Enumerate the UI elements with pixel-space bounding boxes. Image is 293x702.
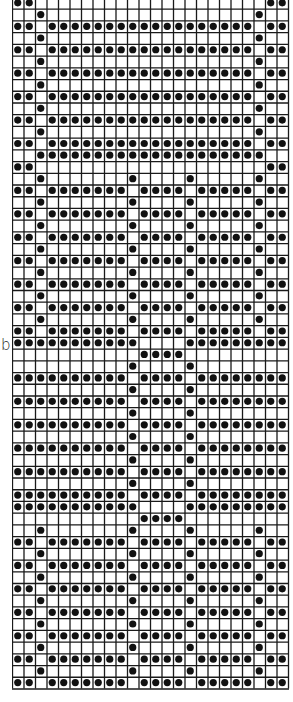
stitch-dot — [279, 503, 286, 510]
stitch-dot — [152, 492, 159, 499]
stitch-dot — [267, 23, 274, 30]
stitch-dot — [233, 304, 240, 311]
stitch-dot — [129, 140, 136, 147]
stitch-dot — [118, 140, 125, 147]
stitch-dot — [244, 152, 251, 159]
stitch-dot — [14, 93, 21, 100]
stitch-dot — [95, 339, 102, 346]
stitch-dot — [118, 503, 125, 510]
stitch-dot — [141, 374, 148, 381]
stitch-dot — [37, 421, 44, 428]
stitch-dot — [164, 492, 171, 499]
stitch-dot — [49, 656, 56, 663]
stitch-dot — [279, 187, 286, 194]
stitch-dot — [187, 70, 194, 77]
stitch-dot — [164, 374, 171, 381]
stitch-dot — [267, 234, 274, 241]
stitch-dot — [233, 445, 240, 452]
stitch-dot — [187, 339, 194, 346]
stitch-dot — [244, 140, 251, 147]
stitch-dot — [37, 175, 44, 182]
stitch-dot — [129, 574, 136, 581]
stitch-dot — [83, 421, 90, 428]
stitch-dot — [187, 667, 194, 674]
stitch-dot — [279, 421, 286, 428]
stitch-dot — [129, 245, 136, 252]
stitch-dot — [106, 210, 113, 217]
stitch-dot — [72, 210, 79, 217]
stitch-dot — [187, 363, 194, 370]
stitch-dot — [244, 538, 251, 545]
stitch-dot — [129, 70, 136, 77]
stitch-dot — [95, 210, 102, 217]
stitch-dot — [83, 632, 90, 639]
stitch-dot — [141, 632, 148, 639]
stitch-dot — [233, 23, 240, 30]
stitch-dot — [175, 281, 182, 288]
stitch-dot — [164, 46, 171, 53]
stitch-dot — [175, 515, 182, 522]
stitch-dot — [164, 445, 171, 452]
stitch-dot — [95, 23, 102, 30]
stitch-dot — [233, 468, 240, 475]
stitch-dot — [175, 585, 182, 592]
stitch-dot — [164, 116, 171, 123]
stitch-dot — [72, 421, 79, 428]
stitch-dot — [198, 70, 205, 77]
stitch-dot — [83, 398, 90, 405]
stitch-dot — [60, 562, 67, 569]
stitch-dot — [164, 23, 171, 30]
stitch-dot — [26, 210, 33, 217]
stitch-dot — [210, 609, 217, 616]
stitch-dot — [164, 327, 171, 334]
stitch-dot — [198, 93, 205, 100]
stitch-dot — [26, 339, 33, 346]
stitch-dot — [279, 70, 286, 77]
stitch-dot — [72, 562, 79, 569]
stitch-dot — [210, 234, 217, 241]
stitch-dot — [256, 620, 263, 627]
stitch-dot — [14, 234, 21, 241]
stitch-dot — [60, 492, 67, 499]
stitch-dot — [256, 468, 263, 475]
stitch-dot — [267, 304, 274, 311]
stitch-dot — [60, 304, 67, 311]
stitch-dot — [267, 257, 274, 264]
stitch-dot — [14, 140, 21, 147]
stitch-dot — [279, 468, 286, 475]
stitch-dot — [129, 644, 136, 651]
stitch-dot — [60, 632, 67, 639]
stitch-dot — [95, 187, 102, 194]
stitch-dot — [129, 363, 136, 370]
stitch-dot — [221, 93, 228, 100]
stitch-dot — [279, 281, 286, 288]
stitch-dot — [49, 339, 56, 346]
stitch-dot — [26, 281, 33, 288]
stitch-dot — [118, 152, 125, 159]
stitch-dot — [256, 292, 263, 299]
stitch-dot — [152, 281, 159, 288]
stitch-dot — [49, 234, 56, 241]
stitch-dot — [141, 609, 148, 616]
stitch-dot — [267, 210, 274, 217]
stitch-dot — [244, 632, 251, 639]
stitch-dot — [37, 398, 44, 405]
stitch-dot — [60, 257, 67, 264]
stitch-dot — [37, 503, 44, 510]
stitch-dot — [221, 70, 228, 77]
stitch-dot — [221, 281, 228, 288]
stitch-dot — [187, 386, 194, 393]
stitch-dot — [233, 152, 240, 159]
stitch-dot — [83, 304, 90, 311]
stitch-dot — [83, 152, 90, 159]
stitch-dot — [175, 327, 182, 334]
stitch-dot — [244, 210, 251, 217]
stitch-dot — [26, 234, 33, 241]
stitch-dot — [164, 421, 171, 428]
stitch-dot — [256, 175, 263, 182]
stitch-dot — [187, 316, 194, 323]
stitch-dot — [221, 562, 228, 569]
stitch-dot — [210, 327, 217, 334]
stitch-dot — [49, 632, 56, 639]
stitch-dot — [175, 257, 182, 264]
